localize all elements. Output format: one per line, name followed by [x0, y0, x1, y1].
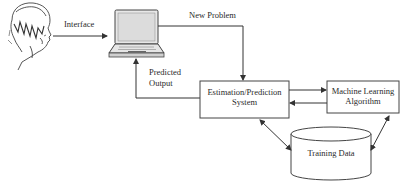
- ml-line2: Algorithm: [327, 96, 399, 106]
- user-head-icon: [8, 3, 51, 70]
- output-label: Output: [149, 78, 173, 88]
- ml-line1: Machine Learning: [327, 86, 399, 96]
- predicted-label: Predicted: [149, 67, 181, 77]
- ml-box-text: Machine Learning Algorithm: [327, 86, 399, 106]
- estimation-line2: System: [200, 97, 289, 107]
- ml-training-arrow: [371, 116, 389, 150]
- laptop-icon: [109, 10, 164, 57]
- new-problem-label: New Problem: [189, 10, 236, 20]
- training-data-label: Training Data: [291, 148, 371, 158]
- estimation-training-arrow: [260, 120, 291, 150]
- estimation-line1: Estimation/Prediction: [200, 87, 289, 97]
- estimation-box-text: Estimation/Prediction System: [200, 87, 289, 107]
- interface-label: Interface: [64, 19, 94, 29]
